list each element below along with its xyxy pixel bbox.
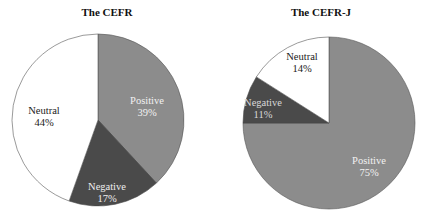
label-value: 14% <box>267 63 337 75</box>
label-value: 75% <box>334 167 404 179</box>
label-neutral: Neutral 14% <box>267 51 337 75</box>
label-value: 11% <box>228 109 298 121</box>
label-name: Positive <box>334 155 404 167</box>
label-name: Neutral <box>9 105 79 117</box>
label-value: 44% <box>9 117 79 129</box>
pie-chart-cefr: The CEFR Positive 39% Negative 17% Neutr… <box>0 0 214 224</box>
label-name: Neutral <box>267 51 337 63</box>
label-positive: Positive 75% <box>334 155 404 179</box>
label-name: Negative <box>72 181 142 193</box>
label-neutral: Neutral 44% <box>9 105 79 129</box>
label-negative: Negative 17% <box>72 181 142 205</box>
label-value: 39% <box>112 107 182 119</box>
pie-chart-cefr-j: The CEFR-J Neutral 14% Negative 11% Posi… <box>214 0 428 224</box>
label-positive: Positive 39% <box>112 95 182 119</box>
label-name: Negative <box>228 97 298 109</box>
label-negative: Negative 11% <box>228 97 298 121</box>
label-name: Positive <box>112 95 182 107</box>
label-value: 17% <box>72 193 142 205</box>
